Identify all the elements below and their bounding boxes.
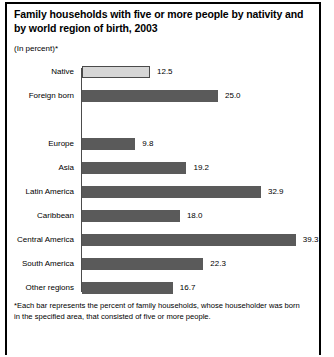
category-label: Foreign born (0, 88, 74, 104)
bar (82, 282, 173, 294)
chart-figure: Family households with five or more peop… (0, 0, 334, 357)
bar (82, 90, 218, 102)
bar (82, 258, 203, 270)
category-label: Latin America (0, 184, 74, 200)
bar-row: Caribbean18.0 (0, 208, 320, 224)
bar-row: Foreign born25.0 (0, 88, 320, 104)
bar-row: Native12.5 (0, 64, 320, 80)
bar-row: Europe9.8 (0, 136, 320, 152)
bar-value-label: 32.9 (268, 184, 284, 200)
category-label: Central America (0, 232, 74, 248)
category-label: Native (0, 64, 74, 80)
bar (82, 162, 186, 174)
bar-value-label: 22.3 (210, 256, 226, 272)
bar-row: Latin America32.9 (0, 184, 320, 200)
bar-value-label: 12.5 (157, 64, 173, 80)
category-label: Caribbean (0, 208, 74, 224)
bar (82, 186, 261, 198)
bar-row: South America22.3 (0, 256, 320, 272)
bar-value-label: 9.8 (142, 136, 153, 152)
chart-plot-area: Native12.5Foreign born25.0Europe9.8Asia1… (0, 64, 320, 294)
bar (82, 66, 150, 78)
bar-value-label: 18.0 (187, 208, 203, 224)
bar-value-label: 39.3 (303, 232, 319, 248)
bar-value-label: 19.2 (193, 160, 209, 176)
bar-row: Other regions16.7 (0, 280, 320, 296)
bar-row: Central America39.3 (0, 232, 320, 248)
chart-subtitle: (In percent)* (14, 44, 314, 54)
chart-title: Family households with five or more peop… (14, 8, 310, 35)
chart-footnote: *Each bar represents the percent of fami… (14, 301, 306, 322)
category-label: Other regions (0, 280, 74, 296)
bar (82, 210, 180, 222)
bar-row: Asia19.2 (0, 160, 320, 176)
bar (82, 234, 296, 246)
bar (82, 138, 135, 150)
bar-value-label: 25.0 (225, 88, 241, 104)
bar-value-label: 16.7 (180, 280, 196, 296)
category-label: South America (0, 256, 74, 272)
truncated-source-line (20, 344, 300, 353)
category-label: Asia (0, 160, 74, 176)
category-label: Europe (0, 136, 74, 152)
chart-header: Family households with five or more peop… (14, 8, 314, 54)
